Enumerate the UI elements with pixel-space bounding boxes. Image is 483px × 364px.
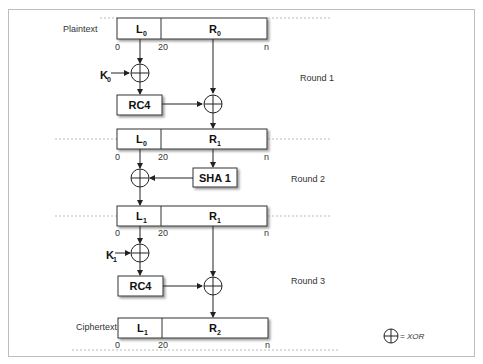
- r0-label: R: [209, 23, 217, 35]
- r2-sub: 2: [217, 329, 221, 336]
- tick-n: n: [265, 340, 270, 350]
- xor-icon: [131, 64, 149, 82]
- tick-0: 0: [115, 340, 120, 350]
- sha1-box: SHA 1: [199, 172, 231, 184]
- round-2-label: Round 2: [291, 174, 325, 184]
- round-3-label: Round 3: [291, 276, 325, 286]
- plaintext-row: Plaintext L 0 R 0 0 20 n: [63, 18, 269, 52]
- round-1: K 0 RC4 Round 1: [100, 39, 334, 128]
- legend: = XOR: [384, 329, 424, 343]
- l1-sub: 1: [144, 329, 148, 336]
- row-label-ciphertext: Ciphertext: [76, 322, 118, 332]
- tick-n: n: [264, 152, 269, 162]
- l0-sub: 0: [143, 140, 147, 147]
- r1-sub: 1: [217, 140, 221, 147]
- l1-label: L: [137, 322, 144, 334]
- r1-label: R: [209, 210, 217, 222]
- frame: [9, 10, 475, 357]
- r1-sub: 1: [217, 217, 221, 224]
- l1-label: L: [136, 210, 143, 222]
- xor-icon: [204, 95, 222, 113]
- ciphertext-row: Ciphertext L 1 R 2 0 20 n: [76, 318, 270, 350]
- xor-icon: [131, 244, 149, 262]
- xor-icon: [384, 329, 398, 343]
- l0-sub: 0: [143, 30, 147, 37]
- tick-0: 0: [115, 228, 120, 238]
- tick-0: 0: [115, 152, 120, 162]
- rc4-box-1: RC4: [128, 99, 151, 111]
- k0-sub: 0: [107, 76, 111, 83]
- tick-n: n: [264, 42, 269, 52]
- feistel-diagram: Plaintext L 0 R 0 0 20 n K 0 RC4 Round: [0, 0, 483, 364]
- l0-label: L: [136, 23, 143, 35]
- row-2: L 1 R 1 0 20 n: [115, 206, 269, 238]
- tick-20: 20: [158, 42, 168, 52]
- row-label-plaintext: Plaintext: [63, 24, 98, 34]
- row-1: L 0 R 1 0 20 n: [115, 129, 269, 162]
- tick-20: 20: [158, 228, 168, 238]
- round-3: K 1 RC4 Round 3: [106, 226, 325, 317]
- l0-label: L: [136, 133, 143, 145]
- r2-label: R: [209, 322, 217, 334]
- tick-0: 0: [115, 42, 120, 52]
- rc4-box-2: RC4: [129, 280, 152, 292]
- xor-icon: [131, 169, 149, 187]
- legend-xor-label: = XOR: [400, 332, 424, 341]
- tick-20: 20: [158, 340, 168, 350]
- xor-icon: [204, 277, 222, 295]
- l1-sub: 1: [143, 217, 147, 224]
- tick-20: 20: [158, 152, 168, 162]
- tick-n: n: [264, 228, 269, 238]
- r1-label: R: [209, 133, 217, 145]
- k1-sub: 1: [113, 256, 117, 263]
- r0-sub: 0: [217, 30, 221, 37]
- round-1-label: Round 1: [300, 73, 334, 83]
